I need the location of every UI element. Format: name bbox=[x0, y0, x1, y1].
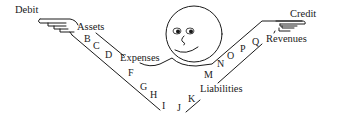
letter-p: P bbox=[240, 44, 246, 54]
left-arm-outer-line bbox=[72, 35, 160, 110]
letter-f: F bbox=[128, 68, 134, 78]
face-mouth bbox=[175, 47, 198, 52]
face-nose bbox=[182, 36, 185, 45]
letter-k: K bbox=[188, 94, 195, 104]
letter-j: J bbox=[177, 103, 181, 113]
liabilities-label: Liabilities bbox=[200, 84, 243, 95]
debit-label: Debit bbox=[15, 5, 38, 16]
letter-i: I bbox=[162, 101, 165, 111]
letter-q: Q bbox=[252, 37, 259, 47]
face-eyes bbox=[173, 28, 194, 34]
revenues-label: Revenues bbox=[266, 34, 307, 45]
letter-b: B bbox=[84, 34, 91, 44]
letter-m: M bbox=[204, 70, 213, 80]
left-hand-icon bbox=[39, 19, 79, 35]
credit-label: Credit bbox=[290, 9, 316, 20]
letter-c: C bbox=[93, 41, 100, 51]
debit-credit-figure-diagram: Debit Credit Assets Expenses Liabilities… bbox=[0, 0, 338, 121]
figure-drawing bbox=[0, 0, 338, 121]
letter-h: H bbox=[150, 90, 157, 100]
letter-n: N bbox=[217, 59, 224, 69]
letter-d: D bbox=[105, 50, 112, 60]
letter-g: G bbox=[140, 82, 147, 92]
expenses-label: Expenses bbox=[120, 53, 160, 64]
right-hand-icon bbox=[274, 21, 305, 33]
letter-o: O bbox=[227, 51, 234, 61]
face-head bbox=[166, 6, 222, 62]
assets-label: Assets bbox=[77, 22, 104, 33]
